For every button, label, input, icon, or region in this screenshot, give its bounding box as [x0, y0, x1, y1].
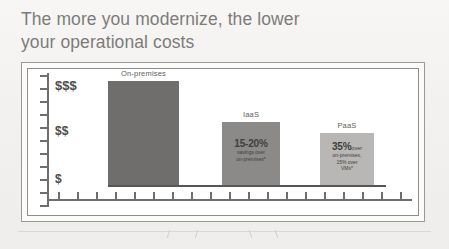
x-axis-tick	[153, 192, 155, 199]
y-axis-tick	[40, 127, 48, 129]
bar-rect-on-premises	[108, 81, 179, 185]
bar-annotation-paas: 35%over on-premises, 15% over VMs*	[320, 141, 374, 172]
y-axis-label-high: $$$	[55, 78, 77, 93]
y-axis-tick	[40, 88, 48, 90]
x-axis-tick	[362, 192, 364, 199]
y-axis-tick	[40, 75, 48, 77]
x-axis-tick	[191, 192, 193, 199]
y-axis-tick	[40, 101, 48, 103]
y-axis-tick	[40, 140, 48, 142]
y-axis-tick	[40, 205, 48, 207]
y-axis-tick	[40, 114, 48, 116]
x-axis-tick	[58, 192, 60, 199]
slide-title: The more you modernize, the lower your o…	[21, 8, 351, 54]
y-axis-tick	[40, 192, 48, 194]
x-axis-tick	[267, 192, 269, 199]
y-axis-label-mid: $$	[55, 124, 68, 138]
bar-iaas: IaaS 15-20% savings over on-premises*	[222, 122, 280, 185]
x-axis-tick	[305, 192, 307, 199]
y-axis-tick	[40, 153, 48, 155]
x-axis-tick	[134, 192, 136, 199]
bar-label-on-premises: On-premises	[121, 69, 166, 78]
x-axis-line	[47, 199, 412, 201]
x-axis-tick	[324, 192, 326, 199]
bar-stat-paas-unit: over	[351, 145, 362, 151]
bar-paas: PaaS 35%over on-premises, 15% over VMs*	[320, 133, 374, 185]
title-line-2: your operational costs	[21, 31, 351, 54]
bar-stat-iaas: 15-20%	[222, 138, 280, 149]
x-axis-tick	[96, 192, 98, 199]
x-axis-tick	[400, 192, 402, 199]
bar-on-premises: On-premises	[108, 81, 179, 185]
bar-label-paas: PaaS	[337, 121, 356, 130]
bar-label-iaas: IaaS	[243, 110, 259, 119]
title-line-1: The more you modernize, the lower	[21, 8, 351, 31]
bar-stat-paas: 35%over	[320, 141, 374, 152]
x-axis-tick	[210, 192, 212, 199]
x-axis-tick	[343, 192, 345, 199]
y-axis-label-low: $	[55, 172, 62, 186]
x-axis-tick	[229, 192, 231, 199]
x-axis-tick	[172, 192, 174, 199]
bar-stat-paas-value: 35%	[332, 141, 351, 152]
x-axis-tick	[286, 192, 288, 199]
bar-sub-iaas-2: on-premises*	[222, 156, 280, 163]
chart-frame-inner: $$$ $$ $ On-premises IaaS 15-20% savings…	[27, 68, 419, 216]
slide-canvas: The more you modernize, the lower your o…	[0, 0, 449, 249]
bar-sub-paas-3: VMs*	[320, 165, 374, 172]
bar-annotation-iaas: 15-20% savings over on-premises*	[222, 138, 280, 162]
x-axis-tick	[115, 192, 117, 199]
y-axis-tick	[40, 179, 48, 181]
x-axis-tick	[248, 192, 250, 199]
chart-plot-area: $$$ $$ $ On-premises IaaS 15-20% savings…	[28, 69, 418, 215]
bars-baseline	[108, 185, 386, 187]
scan-artifact-line	[18, 231, 431, 232]
chart-frame-outer: $$$ $$ $ On-premises IaaS 15-20% savings…	[21, 62, 425, 222]
x-axis-tick	[381, 192, 383, 199]
x-axis-tick	[77, 192, 79, 199]
y-axis-tick	[40, 166, 48, 168]
